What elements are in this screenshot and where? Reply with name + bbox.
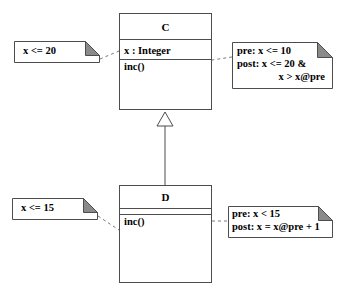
generalization-arrow	[157, 112, 173, 185]
class-attribute-x: x : Integer	[120, 40, 211, 60]
note-c-contract-line-3: x > x@pre	[237, 71, 325, 84]
note-c-invariant-line-1: x <= 20	[23, 45, 56, 58]
class-operation-inc-d: inc()	[120, 215, 211, 282]
class-box-d[interactable]: D inc()	[119, 185, 212, 283]
class-operation-inc-c: inc()	[120, 60, 211, 109]
class-name-c: C	[120, 14, 211, 40]
note-c-contract-line-1: pre: x <= 10	[237, 45, 291, 58]
note-d-contract-line-2: post: x = x@pre + 1	[232, 221, 320, 234]
note-d-contract[interactable]: pre: x < 15 post: x = x@pre + 1	[228, 206, 333, 238]
class-box-c[interactable]: C x : Integer inc()	[119, 13, 212, 110]
note-anchor-d-invariant	[98, 216, 119, 230]
class-name-d: D	[120, 186, 211, 209]
note-c-contract[interactable]: pre: x <= 10 post: x <= 20 & x > x@pre	[232, 42, 333, 89]
note-d-contract-line-1: pre: x < 15	[232, 208, 280, 221]
note-c-invariant[interactable]: x <= 20	[14, 41, 100, 63]
note-d-invariant[interactable]: x <= 15	[12, 198, 98, 220]
note-d-invariant-line-1: x <= 15	[21, 202, 54, 215]
note-c-contract-line-2: post: x <= 20 &	[237, 58, 306, 71]
uml-class-diagram: C x : Integer inc() D inc() x <= 20 pre:…	[0, 0, 345, 295]
note-anchor-c-invariant	[100, 51, 119, 59]
